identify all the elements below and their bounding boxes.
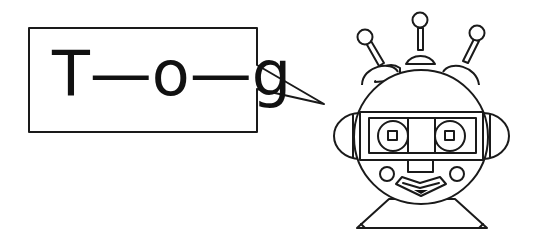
robot	[334, 13, 509, 229]
antenna-ball-center	[413, 13, 428, 28]
speech-bubble: T—o—g	[29, 28, 324, 132]
illustration: T—o—g	[0, 0, 537, 240]
robot-cheek-left	[380, 167, 394, 181]
antenna-ball-left	[358, 30, 373, 45]
robot-eye-left	[378, 121, 408, 151]
robot-eye-right	[435, 121, 465, 151]
robot-nose	[408, 160, 433, 172]
speech-bubble-text: T—o—g	[51, 37, 291, 110]
antenna-ball-right	[470, 26, 485, 41]
robot-cheek-right	[450, 167, 464, 181]
